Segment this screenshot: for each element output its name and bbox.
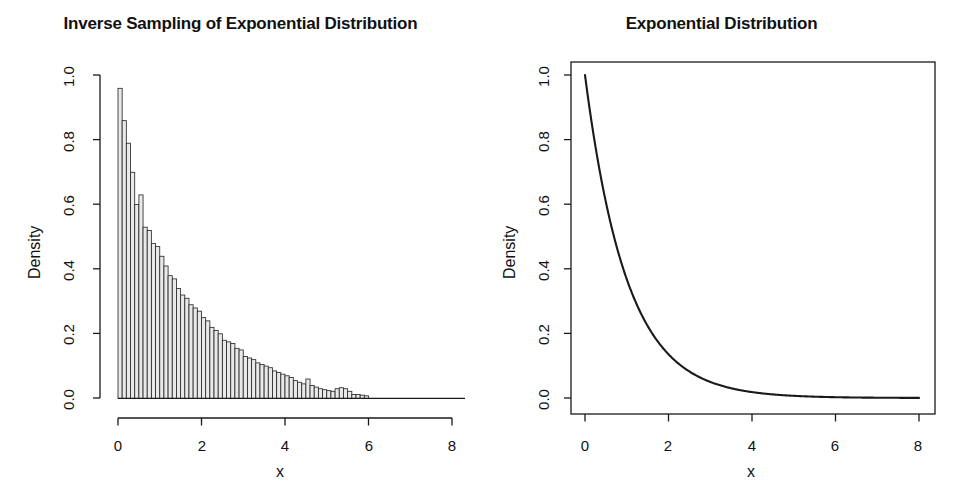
histogram-bar <box>172 279 176 399</box>
histogram-bar <box>268 368 272 399</box>
histogram-bars <box>118 88 369 398</box>
histogram-bar <box>193 308 197 398</box>
histogram-bar <box>156 247 160 399</box>
histogram-bar <box>239 350 243 398</box>
histogram-bar <box>247 358 251 398</box>
panel-density-curve: Exponential Distribution Density 0.0 0.2… <box>481 0 962 491</box>
histogram-bar <box>302 384 306 399</box>
histogram-bar <box>126 143 130 398</box>
histogram-bar <box>210 327 214 398</box>
histogram-bar <box>285 376 289 399</box>
histogram-bar <box>235 348 239 398</box>
histogram-bar <box>306 379 310 398</box>
histogram-bar <box>281 374 285 398</box>
histogram-bar <box>331 391 335 398</box>
histogram-bar <box>176 289 180 399</box>
histogram-bar <box>118 88 122 398</box>
histogram-bar <box>264 366 268 398</box>
histogram-bar <box>293 381 297 399</box>
plot-box-frame <box>571 62 935 414</box>
histogram-bar <box>122 121 126 399</box>
histogram-bar <box>243 356 247 398</box>
histogram-bar <box>143 227 147 398</box>
histogram-bar <box>222 340 226 398</box>
histogram-bar <box>214 331 218 399</box>
histogram-bar <box>277 373 281 399</box>
exponential-density-curve <box>585 75 919 398</box>
histogram-bar <box>327 391 331 399</box>
histogram-bar <box>202 318 206 399</box>
curve-plot-area <box>481 0 962 491</box>
histogram-bar <box>135 205 139 399</box>
histogram-bar <box>256 363 260 399</box>
histogram-bar <box>227 342 231 399</box>
histogram-bar <box>343 389 347 399</box>
figure-canvas: Inverse Sampling of Exponential Distribu… <box>0 0 962 491</box>
histogram-bar <box>310 385 314 398</box>
histogram-bar <box>231 343 235 398</box>
histogram-bar <box>252 360 256 399</box>
histogram-bar <box>218 334 222 399</box>
histogram-bar <box>339 388 343 399</box>
histogram-bar <box>139 195 143 398</box>
histogram-plot-area <box>0 0 481 491</box>
histogram-bar <box>323 390 327 399</box>
histogram-bar <box>272 371 276 398</box>
histogram-bar <box>168 276 172 399</box>
histogram-bar <box>189 305 193 399</box>
histogram-bar <box>348 391 352 398</box>
histogram-bar <box>318 389 322 399</box>
histogram-bar <box>197 311 201 398</box>
histogram-bar <box>131 172 135 398</box>
histogram-bar <box>260 364 264 398</box>
histogram-bar <box>289 377 293 398</box>
histogram-bar <box>160 256 164 398</box>
histogram-bar <box>185 298 189 398</box>
histogram-bar <box>335 389 339 399</box>
histogram-bar <box>181 295 185 398</box>
histogram-bar <box>206 321 210 399</box>
histogram-bar <box>164 266 168 398</box>
histogram-bar <box>314 387 318 398</box>
histogram-bar <box>298 382 302 398</box>
panel-histogram: Inverse Sampling of Exponential Distribu… <box>0 0 481 491</box>
histogram-bar <box>151 243 155 398</box>
histogram-bar <box>147 230 151 398</box>
